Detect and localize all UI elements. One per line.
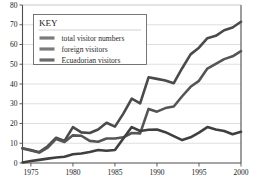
visitor-numbers-line-chart: 01020304050607080 1975198019851990199520… [0,0,253,188]
legend-label-0: total visitor numbers [62,34,125,43]
legend-label-1: foreign visitors [62,45,108,54]
x-tick-label-1985: 1985 [107,168,122,177]
y-tick-label-40: 40 [10,80,18,89]
y-tick-label-10: 10 [10,139,18,148]
y-tick-label-80: 80 [10,1,18,10]
legend-label-2: Ecuadorian visitors [62,56,121,65]
y-tick-label-30: 30 [10,99,18,108]
y-tick-label-70: 70 [10,20,18,29]
y-axis-tick-labels: 01020304050607080 [10,1,18,168]
x-tick-label-1995: 1995 [191,168,206,177]
x-tick-label-1980: 1980 [65,168,80,177]
x-tick-label-1990: 1990 [149,168,164,177]
y-tick-label-20: 20 [10,119,18,128]
legend-title: KEY [39,18,58,28]
chart-legend: KEYtotal visitor numbersforeign visitors… [34,15,147,65]
y-tick-label-60: 60 [10,40,18,49]
chart-container: 01020304050607080 1975198019851990199520… [0,0,253,188]
y-tick-label-50: 50 [10,60,18,69]
x-tick-label-1975: 1975 [23,168,38,177]
x-axis-tick-labels: 197519801985199019952000 [23,168,248,177]
y-tick-label-0: 0 [14,159,18,168]
x-tick-label-2000: 2000 [234,168,249,177]
